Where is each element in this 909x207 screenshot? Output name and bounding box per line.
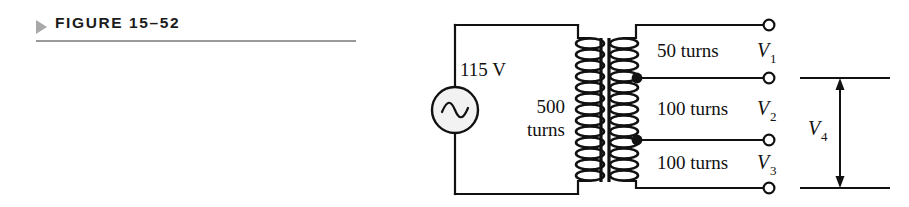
voltage-label-v2: V 2 <box>757 97 777 124</box>
figure-rule-divider <box>36 40 356 42</box>
primary-turns-label-line2: turns <box>527 119 565 140</box>
tap-dot-1 <box>632 73 643 84</box>
triangle-right-icon <box>36 20 47 34</box>
figure-label: FIGURE 15–52 <box>55 14 180 32</box>
voltage-label-v2-sub: 2 <box>770 109 777 124</box>
transformer-circuit-diagram: 115 V 500 turns <box>420 0 909 207</box>
ac-source-icon <box>432 87 478 133</box>
tap-dot-2 <box>632 135 643 146</box>
v4-arrowhead-up <box>836 78 845 90</box>
terminal-v1-top <box>764 20 775 31</box>
voltage-label-v4: V 4 <box>808 117 828 144</box>
terminal-v1-v2 <box>764 73 775 84</box>
voltage-label-v1-sub: 1 <box>770 51 777 66</box>
terminal-v3-bottom <box>764 183 775 194</box>
voltage-label-v3-sub: 3 <box>770 163 777 178</box>
secondary-turns-label-1: 50 turns <box>657 40 719 61</box>
voltage-label-v1: V 1 <box>757 39 777 66</box>
secondary-turns-label-3: 100 turns <box>657 152 728 173</box>
primary-turns-label-line1: 500 <box>537 96 566 117</box>
secondary-coil <box>610 38 638 180</box>
secondary-turns-label-2: 100 turns <box>657 98 728 119</box>
v4-arrowhead-down <box>836 176 845 188</box>
voltage-label-v3: V 3 <box>757 151 777 178</box>
voltage-label-v4-sub: 4 <box>821 129 828 144</box>
source-voltage-label: 115 V <box>460 59 506 80</box>
figure-caption: FIGURE 15–52 <box>36 14 356 46</box>
terminal-v2-v3 <box>764 135 775 146</box>
